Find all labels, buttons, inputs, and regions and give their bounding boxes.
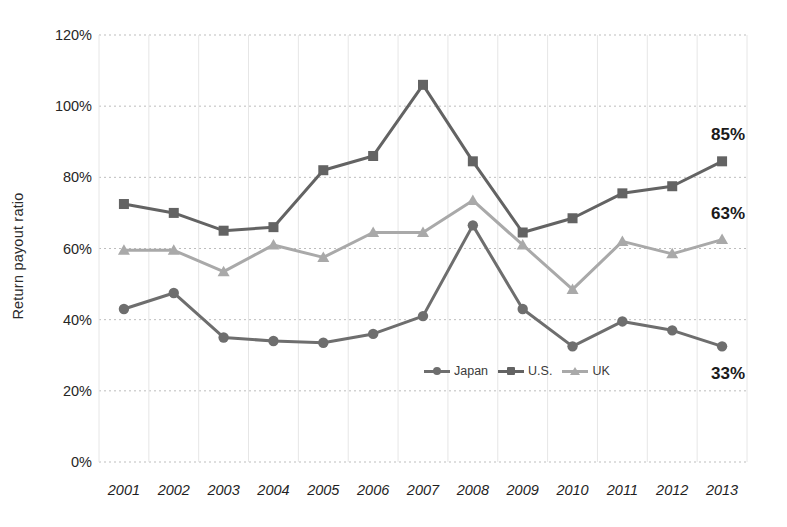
data-point bbox=[219, 226, 229, 236]
legend-item-uk[interactable]: UK bbox=[562, 364, 609, 378]
x-axis-tick-label: 2011 bbox=[607, 482, 638, 498]
x-axis-tick-label: 2005 bbox=[307, 482, 339, 498]
y-axis-tick-label: 40% bbox=[36, 312, 92, 328]
data-point bbox=[568, 213, 578, 223]
legend-label: UK bbox=[592, 364, 609, 378]
data-point bbox=[717, 156, 727, 166]
series-layer bbox=[118, 80, 728, 352]
y-axis-tick-label: 100% bbox=[36, 98, 92, 114]
x-axis-tick-label: 2009 bbox=[507, 482, 539, 498]
x-axis-tick-label: 2001 bbox=[108, 482, 140, 498]
chart-legend: JapanU.S.UK bbox=[424, 364, 610, 378]
data-point bbox=[418, 80, 428, 90]
data-point bbox=[318, 165, 328, 175]
legend-swatch-icon bbox=[424, 366, 450, 376]
data-point bbox=[169, 208, 179, 218]
x-axis-tick-label: 2013 bbox=[706, 482, 738, 498]
data-point bbox=[716, 234, 728, 245]
legend-item-u-s[interactable]: U.S. bbox=[498, 364, 552, 378]
data-point bbox=[267, 239, 279, 250]
series-japan bbox=[119, 220, 728, 351]
y-axis-tick-label: 60% bbox=[36, 241, 92, 257]
series-line bbox=[124, 85, 722, 233]
legend-label: U.S. bbox=[528, 364, 552, 378]
x-axis-tick-label: 2002 bbox=[158, 482, 190, 498]
series-line bbox=[124, 200, 722, 289]
legend-label: Japan bbox=[454, 364, 488, 378]
data-point bbox=[119, 199, 129, 209]
line-chart-svg bbox=[99, 35, 747, 462]
series-end-label: 33% bbox=[711, 364, 745, 384]
data-point bbox=[717, 341, 727, 351]
x-axis-tick-label: 2004 bbox=[257, 482, 289, 498]
data-point bbox=[268, 336, 278, 346]
x-axis-tick-label: 2007 bbox=[407, 482, 439, 498]
data-point bbox=[667, 181, 677, 191]
data-point bbox=[418, 311, 428, 321]
series-uk bbox=[118, 194, 728, 293]
y-axis-tick-label: 0% bbox=[36, 454, 92, 470]
data-point bbox=[617, 316, 627, 326]
legend-swatch-icon bbox=[498, 366, 524, 376]
x-axis-tick-label: 2006 bbox=[357, 482, 389, 498]
series-u-s bbox=[119, 80, 727, 238]
y-axis-tick-label: 80% bbox=[36, 169, 92, 185]
data-point bbox=[218, 332, 228, 342]
data-point bbox=[616, 235, 628, 246]
data-point bbox=[468, 220, 478, 230]
y-axis-tick-label: 20% bbox=[36, 383, 92, 399]
legend-swatch-icon bbox=[562, 366, 588, 376]
data-point bbox=[617, 188, 627, 198]
plot-area bbox=[99, 35, 747, 462]
x-axis-tick-label: 2012 bbox=[656, 482, 688, 498]
chart-container: Return payout ratio 0%20%40%60%80%100%12… bbox=[0, 0, 787, 527]
data-point bbox=[368, 329, 378, 339]
data-point bbox=[318, 338, 328, 348]
data-point bbox=[467, 194, 479, 205]
legend-item-japan[interactable]: Japan bbox=[424, 364, 488, 378]
x-axis-tick-label: 2010 bbox=[556, 482, 588, 498]
series-end-label: 85% bbox=[711, 125, 745, 145]
data-point bbox=[667, 325, 677, 335]
series-end-label: 63% bbox=[711, 204, 745, 224]
data-point bbox=[468, 156, 478, 166]
data-point bbox=[567, 341, 577, 351]
data-point bbox=[169, 288, 179, 298]
data-point bbox=[368, 151, 378, 161]
x-axis-tick-label: 2008 bbox=[457, 482, 489, 498]
data-point bbox=[517, 304, 527, 314]
y-axis-title: Return payout ratio bbox=[10, 166, 26, 346]
x-axis-tick-label: 2003 bbox=[207, 482, 239, 498]
y-axis-tick-labels: 0%20%40%60%80%100%120% bbox=[30, 0, 92, 527]
data-point bbox=[268, 222, 278, 232]
data-point bbox=[518, 227, 528, 237]
y-axis-tick-label: 120% bbox=[36, 27, 92, 43]
data-point bbox=[119, 304, 129, 314]
